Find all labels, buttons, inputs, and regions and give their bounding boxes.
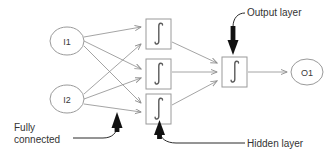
fully-connected-pointer-shaft	[115, 126, 120, 132]
fully-connected-annotation-line2: connected	[14, 134, 60, 145]
hidden-layer-leader-line	[160, 132, 245, 143]
connection-i2-h1	[84, 44, 141, 94]
neural-network-diagram: I1 I2	[0, 0, 332, 159]
input-layer: I1 I2	[50, 27, 84, 113]
output-layer-annotation: Output layer	[228, 7, 303, 55]
output-layer-annotation-label: Output layer	[247, 7, 302, 18]
output-layer	[222, 57, 247, 87]
input-node-i2-label: I2	[63, 95, 71, 105]
connection-i2-h2	[84, 78, 141, 99]
connection-h3-out	[172, 81, 217, 105]
connection-h1-out	[172, 42, 217, 63]
hidden-unit-h2[interactable]	[146, 59, 171, 89]
hidden-layer-annotation-label: Hidden layer	[247, 138, 304, 149]
fully-connected-annotation: Fully connected	[14, 112, 123, 145]
connection-i2-h3	[84, 104, 141, 112]
diagram-canvas: I1 I2	[0, 0, 332, 159]
hidden-layer	[146, 19, 171, 124]
output-unit[interactable]	[222, 57, 247, 87]
fully-connected-pointer-arrow	[112, 112, 123, 128]
output-layer-pointer-shaft	[231, 26, 236, 41]
hidden-to-output-connections	[172, 42, 217, 105]
hidden-unit-h1[interactable]	[146, 19, 171, 49]
fully-connected-annotation-line1: Fully	[14, 122, 35, 133]
connection-i1-h3	[84, 46, 141, 103]
hidden-unit-h3[interactable]	[146, 94, 171, 124]
input-to-hidden-connections	[84, 27, 141, 112]
input-node-i1-label: I1	[63, 37, 71, 47]
output-layer-leader-line	[233, 13, 245, 27]
fully-connected-leader-line	[73, 126, 117, 138]
output-node-o1[interactable]: O1	[291, 59, 323, 85]
input-node-i1[interactable]: I1	[50, 27, 84, 55]
connection-i1-h1	[84, 27, 141, 37]
hidden-layer-pointer-shaft	[157, 133, 162, 139]
output-layer-pointer-arrow	[228, 40, 239, 55]
output-node-o1-label: O1	[301, 68, 313, 78]
input-node-i2[interactable]: I2	[50, 85, 84, 113]
hidden-layer-annotation: Hidden layer	[154, 120, 304, 149]
